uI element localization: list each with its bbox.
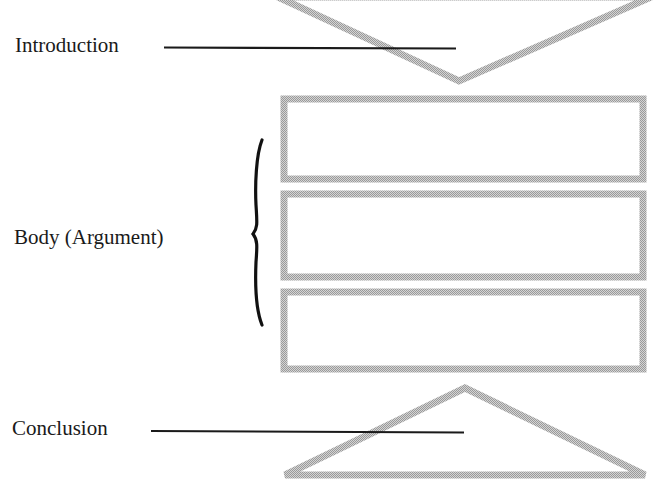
body-rectangle-3 <box>284 292 643 369</box>
conclusion-leader-line <box>151 431 464 433</box>
body-curly-brace <box>253 140 262 325</box>
introduction-leader-line <box>164 48 456 49</box>
conclusion-label: Conclusion <box>12 418 108 439</box>
body-rectangle-1 <box>284 99 643 179</box>
body-label: Body (Argument) <box>14 227 164 248</box>
body-rectangle-2 <box>284 194 643 277</box>
essay-structure-diagram: Introduction Body (Argument) Conclusion <box>0 0 653 499</box>
introduction-inverted-triangle <box>278 0 651 81</box>
introduction-label: Introduction <box>15 35 119 56</box>
